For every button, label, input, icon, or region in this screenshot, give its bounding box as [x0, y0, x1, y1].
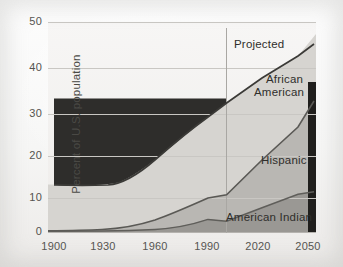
- annotation-african-american: American: [254, 86, 304, 98]
- y-axis-title: Percent of U.S. population: [70, 44, 82, 204]
- x-tick-2020: 2020: [238, 240, 278, 252]
- annotation-african: African: [266, 73, 303, 85]
- x-tick-1930: 1930: [83, 240, 123, 252]
- x-tick-1900: 1900: [34, 240, 74, 252]
- y-tick-0: 0: [16, 225, 42, 237]
- y-tick-10: 10: [16, 191, 42, 203]
- x-tick-1990: 1990: [187, 240, 227, 252]
- y-tick-50: 50: [16, 15, 42, 27]
- chart-svg: [48, 22, 316, 233]
- y-tick-40: 40: [16, 61, 42, 73]
- annotation-hispanic: Hispanic: [261, 154, 307, 166]
- x-tick-2050: 2050: [288, 240, 328, 252]
- chart-figure: Percent of U.S. population 50 40 30 20 1…: [0, 0, 343, 267]
- y-tick-20: 20: [16, 149, 42, 161]
- y-tick-30: 30: [16, 107, 42, 119]
- x-tick-1960: 1960: [135, 240, 175, 252]
- annotation-projected: Projected: [234, 38, 284, 50]
- plot-area: Percent of U.S. population 50 40 30 20 1…: [48, 22, 316, 233]
- annotation-american-indian: American Indian: [226, 211, 312, 223]
